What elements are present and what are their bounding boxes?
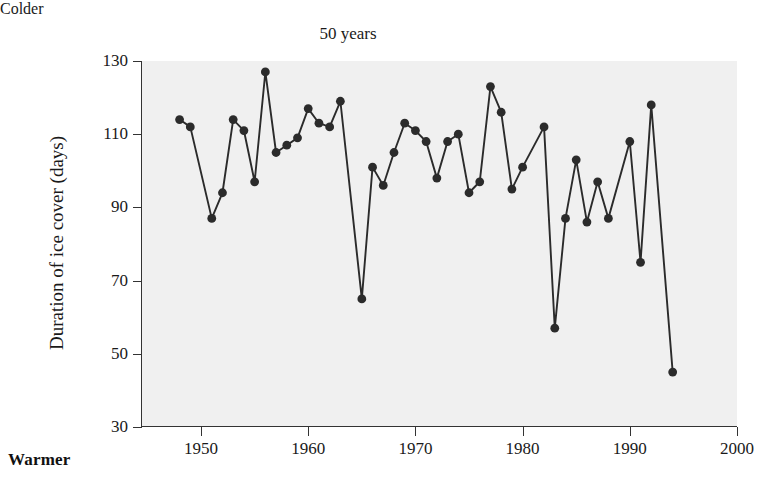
data-point [411,126,420,135]
data-point [572,155,581,164]
data-point [390,148,399,157]
data-point [422,137,431,146]
data-point [475,177,484,186]
data-point [240,126,249,135]
data-point [540,122,549,131]
data-point [507,185,516,194]
data-point [550,324,559,333]
data-series-layer [0,0,768,480]
data-point [636,258,645,267]
data-point [465,188,474,197]
data-point [175,115,184,124]
chart-figure: Colder 50 years Duration of ice cover (d… [0,0,768,480]
data-point [647,101,656,110]
data-point [400,119,409,128]
data-point [261,68,270,77]
data-point [561,214,570,223]
data-point [336,97,345,106]
data-point [282,141,291,150]
series-line [180,72,673,372]
data-point [432,174,441,183]
data-point [583,218,592,227]
data-point [379,181,388,190]
data-point [272,148,281,157]
data-point [604,214,613,223]
data-point [293,133,302,142]
data-point [593,177,602,186]
warmer-annotation: Warmer [8,450,71,470]
series-markers [175,68,677,377]
data-point [486,82,495,91]
data-point [304,104,313,113]
data-point [250,177,259,186]
data-point [368,163,377,172]
data-point [357,295,366,304]
data-point [325,122,334,131]
data-point [454,130,463,139]
data-point [229,115,238,124]
data-point [518,163,527,172]
data-point [207,214,216,223]
data-point [668,368,677,377]
data-point [625,137,634,146]
data-point [443,137,452,146]
data-point [218,188,227,197]
data-point [186,122,195,131]
data-point [315,119,324,128]
data-point [497,108,506,117]
